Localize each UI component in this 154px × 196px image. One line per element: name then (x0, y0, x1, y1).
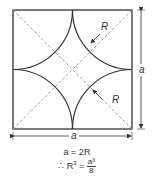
label-radius-upper: R (101, 22, 108, 32)
radius-arrow-lower (93, 90, 102, 99)
label-side-vertical: a (139, 64, 145, 76)
radius-arrow-upper (91, 34, 100, 43)
fraction: a³8 (87, 158, 96, 175)
label-radius-lower: R (112, 95, 119, 105)
label-side-horizontal: a (69, 131, 79, 141)
equation-2: ∴ R3 = a³8 (0, 158, 154, 175)
equation-1: a = 2R (0, 147, 154, 157)
